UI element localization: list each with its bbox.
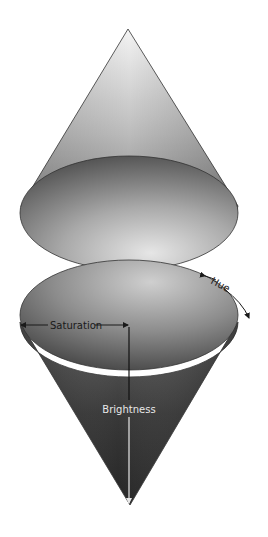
top-cone-base-ellipse — [20, 156, 238, 270]
hsb-double-cone-diagram: Hue Saturation Brightness — [0, 0, 268, 537]
saturation-label: Saturation — [50, 320, 102, 331]
top-cone — [20, 29, 238, 270]
brightness-label: Brightness — [102, 404, 155, 415]
